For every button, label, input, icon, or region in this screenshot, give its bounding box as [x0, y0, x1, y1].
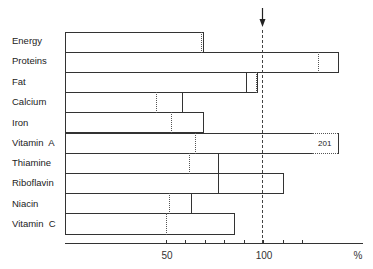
- marker-dotted-niacin: [169, 193, 170, 214]
- bar-thiamine: [65, 153, 219, 174]
- tick-50: [166, 240, 167, 244]
- tick-60: [185, 240, 186, 244]
- tick-100: [263, 240, 264, 244]
- tick-120: [302, 240, 303, 244]
- vitamin-a-truncation-bottom: [312, 153, 338, 154]
- reference-line-100: [262, 30, 263, 243]
- nutrient-bar-chart: Energy Proteins Fat Calcium Iron Vitamin…: [0, 0, 373, 269]
- marker-dotted-energy: [201, 32, 202, 53]
- label-niacin: Niacin: [12, 198, 38, 210]
- bar-calcium: [65, 92, 183, 113]
- bar-proteins: [65, 52, 339, 73]
- label-calcium: Calcium: [12, 96, 46, 108]
- tick-70: [205, 240, 206, 244]
- x-axis: [65, 243, 363, 244]
- marker-dotted-vitamin-a: [195, 133, 196, 154]
- bar-energy: [65, 32, 204, 53]
- tick-110: [283, 240, 284, 244]
- marker-dotted-thiamine: [189, 153, 190, 174]
- marker-solid-calcium: [182, 92, 183, 113]
- tick-label-50: 50: [161, 250, 172, 261]
- marker-dotted-iron: [171, 112, 172, 133]
- tick-80: [224, 240, 225, 244]
- bar-iron: [65, 112, 204, 133]
- label-vitamin-a: Vitamin A: [12, 137, 55, 149]
- bar-niacin: [65, 193, 192, 214]
- bar-vitamin-c: [65, 213, 235, 235]
- label-riboflavin: Riboflavin: [12, 177, 54, 189]
- label-energy: Energy: [12, 35, 42, 47]
- label-fat: Fat: [12, 76, 26, 88]
- marker-dotted-fat: [256, 72, 257, 93]
- vitamin-a-value-label: 201: [318, 139, 331, 148]
- label-vitamin-c: Vitamin C: [12, 218, 56, 230]
- label-thiamine: Thiamine: [12, 157, 51, 169]
- label-iron: Iron: [12, 117, 28, 129]
- bar-fat: [65, 72, 258, 93]
- bar-riboflavin: [65, 173, 284, 194]
- bar-vitamin-a: [65, 133, 339, 154]
- marker-solid-fat: [246, 72, 247, 93]
- marker-dotted-proteins: [318, 52, 319, 73]
- marker-dotted-calcium: [156, 92, 157, 113]
- label-proteins: Proteins: [12, 55, 47, 67]
- unit-label-percent: %: [354, 250, 363, 261]
- marker-solid-riboflavin: [218, 173, 219, 194]
- tick-90: [244, 240, 245, 244]
- vitamin-a-truncation-top: [312, 133, 338, 134]
- tick-label-100: 100: [256, 250, 273, 261]
- marker-solid-thiamine: [218, 153, 219, 174]
- down-arrow-icon: [257, 8, 268, 28]
- marker-dotted-vitamin-c: [166, 213, 167, 235]
